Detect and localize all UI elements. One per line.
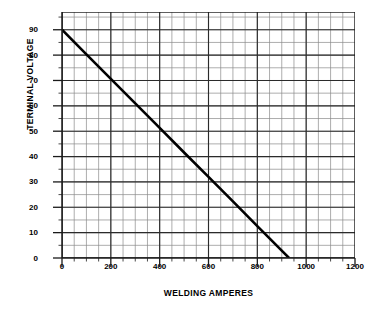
y-tick-label: 40 (14, 152, 38, 161)
y-tick-label: 50 (14, 127, 38, 136)
x-tick-label: 0 (42, 262, 82, 271)
x-tick-label: 400 (140, 262, 180, 271)
y-tick-label: 80 (14, 51, 38, 60)
y-tick-label: 70 (14, 76, 38, 85)
x-tick-label: 800 (237, 262, 277, 271)
x-tick-label: 1200 (335, 262, 375, 271)
y-tick-label: 60 (14, 101, 38, 110)
y-tick-label: 90 (14, 25, 38, 34)
x-tick-label: 1000 (286, 262, 326, 271)
y-tick-label: 0 (14, 254, 38, 263)
x-tick-label: 200 (91, 262, 131, 271)
y-tick-label: 30 (14, 177, 38, 186)
y-tick-label: 20 (14, 203, 38, 212)
chart-figure: TERMINAL VOLTAGE WELDING AMPERES 0102030… (0, 0, 379, 319)
plot-svg (62, 12, 355, 258)
plot-area (62, 12, 355, 258)
y-tick-label: 10 (14, 228, 38, 237)
x-tick-label: 600 (189, 262, 229, 271)
x-axis-title: WELDING AMPERES (62, 288, 355, 298)
